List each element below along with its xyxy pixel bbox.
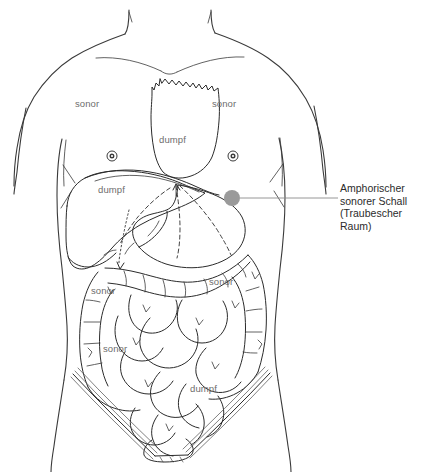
nipple-right-center-icon [231,154,235,158]
mesentery-tick-2 [196,318,203,325]
haustra-5 [204,279,207,294]
mesentery-tick-3 [133,338,140,345]
callout-marker-group [224,190,338,206]
inguinal-hatch-left-3 [78,368,160,450]
nipple-left-icon [107,151,117,161]
desc-haustra-1 [86,300,100,302]
haustra-4 [184,282,186,297]
haustra-2 [143,275,145,292]
figure-canvas: sonor sonor dumpf dumpf sonor sonor sono… [0,0,421,472]
stomach-lesser-curve [139,211,167,247]
neck-right-tick [208,12,211,23]
traube-space-callout-text: Amphorischer sonorer Schall (Traubescher… [340,182,421,232]
sternum-heart-region [151,79,219,178]
haustra-1 [124,271,126,286]
small-bowel-loop-2 [177,300,227,343]
small-bowel-loop-12 [207,396,224,437]
flank-right-ridge-2 [274,191,284,207]
desc-haustra-3 [84,343,100,344]
label-dumpf-liver: dumpf [98,184,125,195]
shoulder-left [14,34,125,186]
mesentery-tick-9 [252,272,259,279]
neck-left-edge [125,10,129,34]
sternal-notch [161,71,177,74]
heart-sternum-outline [151,79,219,178]
flank-left-ridge [63,165,75,183]
arm-left-outer [14,108,26,194]
flank-left-ribline [64,140,66,186]
small-bowel-loop-7 [150,372,198,417]
hip-right [278,380,291,472]
mesentery-tick-1 [143,305,150,312]
label-sonor-left-flank: sonor [91,285,115,296]
ascending-colon-outer [248,255,266,372]
percussion-fan-right [180,186,231,255]
cecum-left [88,387,140,411]
clavicle-right [177,57,244,72]
percussion-fan-center [176,186,180,258]
symphysis-hatch-1 [160,457,163,462]
desc-haustra-4 [87,363,102,366]
nipple-left-center-icon [110,154,114,158]
mesentery-tick-4 [212,362,219,369]
torso-right-side [275,138,285,380]
neck-right-edge [211,10,215,33]
mesentery-tick-11 [258,340,262,349]
nipple-right-icon [228,151,238,161]
asc-haustra-1 [246,287,259,291]
symphysis-line [155,455,188,456]
neck-left-tick [129,12,132,22]
label-sonor-left-chest: sonor [75,98,99,109]
anatomy-illustration [0,0,421,472]
small-bowel-loop-4 [140,318,198,368]
label-dumpf-bladder: dumpf [190,383,217,394]
mesentery-tick-6 [166,424,173,431]
asc-haustra-4 [243,352,257,353]
nipple-markers [107,151,238,161]
inguinal-hatch-left-1 [71,377,153,459]
label-sonor-right-flank: sonor [209,276,233,287]
haustra-3 [163,280,165,297]
traube-space-marker-dot [224,190,240,206]
bladder-region [144,439,193,462]
body-outline-group [14,10,326,472]
asc-haustra-2 [246,309,262,311]
liver-inferior-edge [68,253,116,267]
inguinal-ligament-left [73,374,155,456]
inguinal-hatch-left-2 [75,371,157,453]
mesentery-tick-5 [145,380,152,387]
callout-line-4: Raum) [340,220,421,233]
label-sonor-lower-left: sonor [103,343,127,354]
descending-colon-inner [100,290,114,386]
small-bowel-loop-10 [152,415,173,456]
torso-left-side [57,139,67,380]
shoulder-right [215,33,326,187]
callout-line-3: (Traubescher [340,207,421,220]
callout-line-1: Amphorischer [340,182,421,195]
label-dumpf-heart: dumpf [159,134,186,145]
small-bowel-loop-11 [191,404,204,445]
callout-line-2: sonorer Schall [340,195,421,208]
hip-left [51,380,64,472]
percussion-arrow-down-head [117,262,124,269]
stomach-pylorus [125,243,134,254]
mesentery-tick-10 [88,348,92,357]
small-intestine-group [88,272,262,456]
bladder-outline [144,439,193,462]
mesentery-tick-8 [232,301,239,308]
clavicle-left [96,58,161,71]
ascending-colon-inner [232,277,246,378]
label-sonor-right-chest: sonor [212,98,236,109]
small-bowel-loop-3 [115,316,163,361]
flank-right-ridge [270,164,283,182]
small-bowel-loop-1 [129,295,178,333]
inguinal-ligament-group [71,367,272,462]
